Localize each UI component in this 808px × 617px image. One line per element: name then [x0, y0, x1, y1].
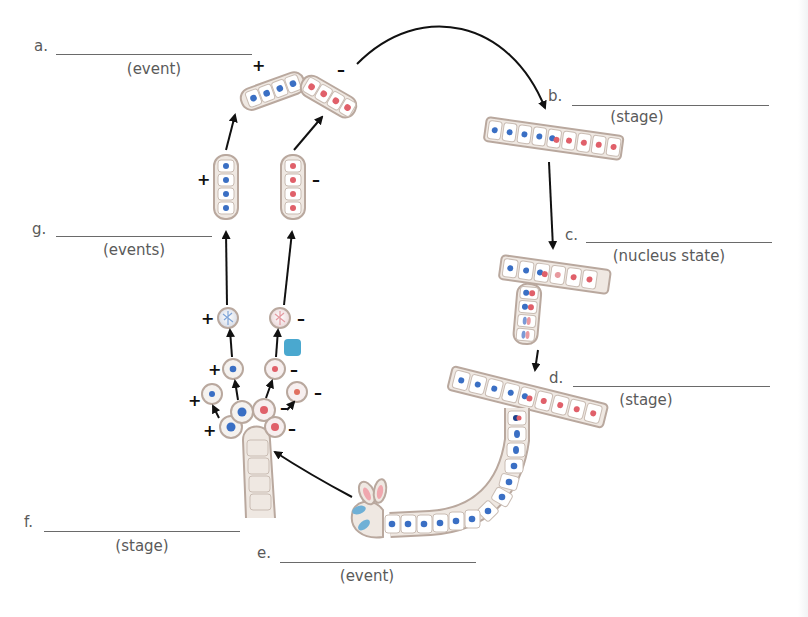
minus-sign: – [290, 362, 298, 378]
arrow-b-to-c [549, 162, 553, 248]
germinating-hyphae [214, 115, 322, 305]
label-g-hint: (events) [56, 241, 212, 259]
conidiophore-with-conidia [202, 308, 307, 518]
label-b-blank[interactable] [572, 105, 769, 106]
plus-sign: + [188, 393, 201, 409]
label-c-letter: c. [565, 226, 578, 244]
minus-sign: – [312, 172, 320, 188]
plus-sign: + [208, 362, 221, 378]
life-cycle-illustration [0, 0, 808, 617]
page-edge-shadow [798, 0, 808, 617]
minus-sign: – [280, 400, 288, 416]
minus-sign: – [337, 62, 345, 78]
label-g-letter: g. [32, 220, 46, 238]
arrow-e-to-f [275, 452, 352, 497]
label-c-blank[interactable] [586, 242, 772, 243]
label-c-hint: (nucleus state) [596, 247, 742, 265]
zygote-ascus-formation [351, 366, 608, 537]
plus-sign: + [197, 172, 210, 188]
label-e-letter: e. [257, 544, 271, 562]
label-e-blank[interactable] [280, 562, 476, 563]
label-b-letter: b. [548, 87, 562, 105]
minus-sign: – [288, 421, 296, 437]
label-d-hint: (stage) [573, 391, 719, 409]
fungal-life-cycle-diagram: + – + – + – + – + – – + – a. (event) b. … [0, 0, 808, 617]
arrow-c-to-d [535, 350, 538, 370]
plus-sign: + [252, 58, 265, 74]
dikaryon-ascogenous-hypha [499, 255, 611, 345]
label-a-blank[interactable] [56, 54, 252, 55]
label-f-blank[interactable] [44, 531, 240, 532]
minus-sign: – [314, 385, 322, 401]
label-g-blank[interactable] [56, 236, 212, 237]
label-d-letter: d. [549, 369, 563, 387]
plus-sign: + [201, 311, 214, 327]
label-f-letter: f. [24, 513, 33, 531]
plus-sign: + [203, 423, 216, 439]
minus-sign: – [297, 311, 305, 327]
label-b-hint: (stage) [572, 108, 702, 126]
label-a-letter: a. [34, 37, 48, 55]
label-d-blank[interactable] [573, 386, 770, 387]
label-e-hint: (event) [280, 567, 454, 585]
label-f-hint: (stage) [44, 537, 240, 555]
arrow-a-to-b [357, 26, 545, 108]
marker-square [284, 339, 301, 356]
ascus-tip-spores [351, 478, 388, 537]
label-a-hint: (event) [56, 60, 252, 78]
